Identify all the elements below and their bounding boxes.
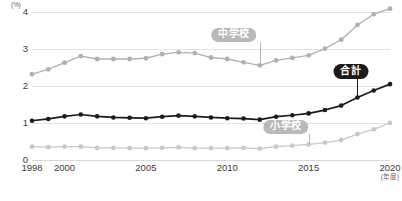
data-point xyxy=(388,6,393,11)
data-point xyxy=(355,23,360,28)
data-point xyxy=(371,127,376,132)
x-tick-label: 2020 xyxy=(379,163,400,173)
series-annotation-中学校: 中学校 xyxy=(211,28,257,43)
data-point xyxy=(176,145,181,150)
x-tick-label: 2005 xyxy=(135,163,156,173)
data-point xyxy=(62,114,67,119)
data-point xyxy=(160,52,165,57)
data-point xyxy=(46,67,51,72)
data-point xyxy=(290,143,295,148)
data-point xyxy=(95,114,100,119)
data-point xyxy=(274,114,279,119)
data-point xyxy=(111,145,116,150)
data-point xyxy=(192,51,197,56)
data-point xyxy=(274,144,279,149)
data-point xyxy=(371,88,376,93)
data-point xyxy=(306,111,311,116)
annotation-leader-line xyxy=(309,134,310,145)
data-point xyxy=(290,55,295,60)
data-point xyxy=(192,114,197,119)
series-annotation-合計: 合計 xyxy=(333,64,368,79)
data-point xyxy=(258,117,263,122)
y-tick-label: 4 xyxy=(6,7,28,17)
x-tick-label: 2015 xyxy=(298,163,319,173)
data-point xyxy=(274,58,279,63)
series-line xyxy=(32,123,390,149)
data-point xyxy=(30,72,35,77)
x-tick-label: 1998 xyxy=(21,163,42,173)
data-point xyxy=(225,146,230,151)
data-point xyxy=(306,53,311,58)
annotation-leader-line xyxy=(260,42,261,65)
data-point xyxy=(144,146,149,151)
data-point xyxy=(78,54,83,59)
data-point xyxy=(127,116,132,121)
data-point xyxy=(290,113,295,118)
data-point xyxy=(355,132,360,137)
gridline-0 xyxy=(32,160,390,161)
data-point xyxy=(30,144,35,149)
data-point xyxy=(241,116,246,121)
data-point xyxy=(95,57,100,62)
y-axis-ticks: 43210 xyxy=(0,12,28,160)
data-point xyxy=(111,115,116,120)
x-axis-unit-label: (年度) xyxy=(381,174,399,181)
data-point xyxy=(176,50,181,55)
data-point xyxy=(46,117,51,122)
data-point xyxy=(339,103,344,108)
annotation-leader-line xyxy=(357,78,358,97)
data-point xyxy=(388,82,393,87)
data-point xyxy=(160,145,165,150)
data-point xyxy=(209,115,214,120)
series-annotation-小学校: 小学校 xyxy=(263,120,309,135)
y-tick-label: 3 xyxy=(6,44,28,54)
x-axis-ticks: 199820002005201020152020(年度) xyxy=(32,163,390,177)
data-point xyxy=(323,108,328,113)
data-point xyxy=(323,46,328,51)
data-point xyxy=(111,57,116,62)
data-point xyxy=(62,60,67,65)
data-point xyxy=(30,118,35,123)
chart-container: (%) 43210 199820002005201020152020(年度) 中… xyxy=(0,0,402,201)
data-point xyxy=(225,57,230,62)
data-point xyxy=(78,144,83,149)
data-point xyxy=(257,146,262,151)
data-point xyxy=(241,60,246,65)
data-point xyxy=(144,56,149,61)
series-合計 xyxy=(30,82,393,123)
data-point xyxy=(339,138,344,143)
data-point xyxy=(95,145,100,150)
data-point xyxy=(371,12,376,17)
data-point xyxy=(192,146,197,151)
data-point xyxy=(225,116,230,121)
data-point xyxy=(323,140,328,145)
data-point xyxy=(160,114,165,119)
x-tick-label: 2010 xyxy=(217,163,238,173)
data-point xyxy=(144,116,149,121)
data-point xyxy=(241,145,246,150)
y-tick-label: 2 xyxy=(6,81,28,91)
series-小学校 xyxy=(30,121,393,151)
data-point xyxy=(62,144,67,149)
data-point xyxy=(79,112,84,117)
data-point xyxy=(209,55,214,60)
data-point xyxy=(209,146,214,151)
x-tick-label: 2000 xyxy=(54,163,75,173)
data-point xyxy=(46,145,51,150)
data-point xyxy=(339,37,344,42)
data-point xyxy=(176,113,181,118)
data-point xyxy=(388,121,393,126)
data-point xyxy=(127,57,132,62)
data-point xyxy=(127,146,132,151)
y-tick-label: 1 xyxy=(6,118,28,128)
